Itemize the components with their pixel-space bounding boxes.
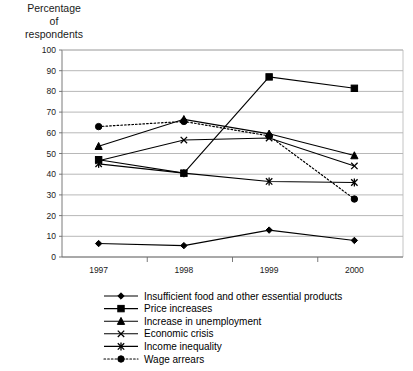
series-price-increases — [95, 74, 357, 177]
y-tick-label: 100 — [42, 45, 56, 55]
data-point — [351, 196, 357, 202]
series-line — [99, 138, 355, 166]
y-tick-label: 60 — [47, 128, 57, 138]
series-insufficient-food-and-other-essential-products — [95, 227, 357, 249]
y-tick-label: 80 — [47, 86, 57, 96]
legend-item-insufficient-food-and-other-essential-products[interactable]: Insufficient food and other essential pr… — [104, 291, 342, 302]
data-point — [95, 123, 101, 129]
legend-item-wage-arrears[interactable]: Wage arrears — [104, 354, 204, 365]
y-tick-label: 10 — [47, 231, 57, 241]
series-line — [99, 230, 355, 246]
y-tick-label: 90 — [47, 66, 57, 76]
y-tick-label: 40 — [47, 169, 57, 179]
y-tick-label: 30 — [47, 190, 57, 200]
y-tick-label: 70 — [47, 107, 57, 117]
chart-svg: 01020304050607080901001997199819992000In… — [0, 0, 413, 371]
legend-label: Income inequality — [144, 341, 222, 352]
legend-item-price-increases[interactable]: Price increases — [104, 303, 212, 314]
legend-label: Economic crisis — [144, 328, 213, 339]
data-point — [266, 133, 272, 139]
legend-item-income-inequality[interactable]: Income inequality — [104, 341, 222, 352]
series-wage-arrears — [95, 118, 357, 202]
series-income-inequality — [95, 160, 357, 187]
legend-label: Insufficient food and other essential pr… — [144, 291, 342, 302]
x-tick-label: 1997 — [89, 265, 108, 275]
grid-lines: 0102030405060708090100 — [42, 45, 403, 262]
data-point — [181, 242, 187, 248]
data-point — [351, 85, 357, 91]
data-point — [266, 227, 272, 233]
x-tick-label: 2000 — [345, 265, 364, 275]
y-tick-label: 0 — [51, 252, 56, 262]
legend-label: Wage arrears — [144, 354, 204, 365]
legend-item-increase-in-unemployment[interactable]: Increase in unemployment — [104, 316, 262, 327]
y-tick-label: 20 — [47, 211, 57, 221]
x-axis: 1997199819992000 — [62, 257, 403, 275]
legend: Insufficient food and other essential pr… — [104, 291, 342, 365]
line-chart: 01020304050607080901001997199819992000In… — [0, 0, 413, 371]
data-point — [95, 240, 101, 246]
data-point — [351, 163, 357, 169]
series-line — [99, 164, 355, 183]
legend-label: Price increases — [144, 303, 212, 314]
data-point — [351, 237, 357, 243]
data-point — [266, 74, 272, 80]
x-tick-label: 1999 — [260, 265, 279, 275]
legend-label: Increase in unemployment — [144, 316, 262, 327]
y-tick-label: 50 — [47, 149, 57, 159]
x-tick-label: 1998 — [174, 265, 193, 275]
series-economic-crisis — [95, 135, 357, 169]
data-point — [181, 118, 187, 124]
legend-item-economic-crisis[interactable]: Economic crisis — [104, 328, 213, 339]
